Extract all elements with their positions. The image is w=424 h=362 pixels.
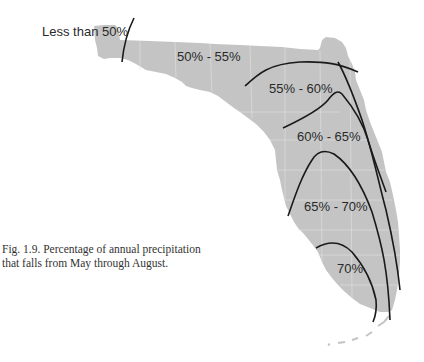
zone-label-50-55: 50% - 55% [177,50,241,63]
zone-label-55-60: 55% - 60% [269,82,333,95]
figure-caption: Fig. 1.9. Percentage of annual precipita… [2,242,262,270]
florida-keys [328,316,389,345]
caption-line-2: that falls from May through August. [2,256,262,270]
zone-label-70: 70% [337,262,363,275]
zone-label-less-than-50: Less than 50% [42,25,128,38]
florida-precipitation-map: Less than 50% 50% - 55% 55% - 60% 60% - … [0,0,424,362]
caption-line-1: Fig. 1.9. Percentage of annual precipita… [2,242,262,256]
zone-label-60-65: 60% - 65% [297,130,361,143]
zone-label-65-70: 65% - 70% [304,200,368,213]
